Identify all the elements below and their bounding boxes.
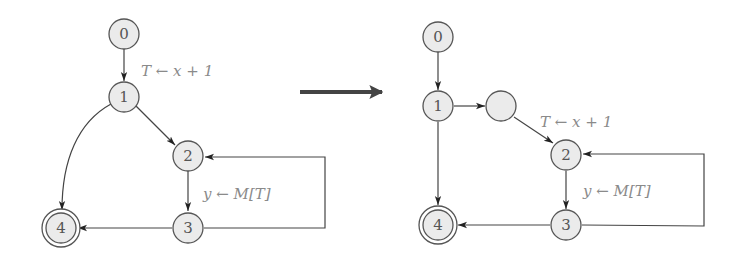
svg-text:0: 0 xyxy=(433,28,443,46)
node-4-accepting: 4 xyxy=(42,209,80,247)
node-4-accepting: 4 xyxy=(419,206,457,244)
svg-text:4: 4 xyxy=(433,216,443,234)
svg-text:1: 1 xyxy=(433,97,443,115)
diagram-canvas: T ← x + 1 y ← M[T] 0 1 2 3 4 xyxy=(0,0,737,259)
node-1: 1 xyxy=(109,82,139,112)
edge-1-2 xyxy=(136,106,175,145)
edge-1-4 xyxy=(62,104,111,210)
node-0: 0 xyxy=(423,22,453,52)
left-graph: T ← x + 1 y ← M[T] 0 1 2 3 4 xyxy=(42,19,325,247)
node-2: 2 xyxy=(551,140,581,170)
node-0: 0 xyxy=(109,19,139,49)
svg-text:0: 0 xyxy=(119,25,129,43)
svg-text:2: 2 xyxy=(561,146,571,164)
svg-text:2: 2 xyxy=(183,147,193,165)
label-assign-y: y ← M[T] xyxy=(582,182,651,200)
node-1: 1 xyxy=(423,91,453,121)
node-2: 2 xyxy=(173,141,203,171)
label-assign-T: T ← x + 1 xyxy=(540,113,612,131)
node-new-empty xyxy=(486,91,516,121)
svg-text:4: 4 xyxy=(56,219,66,237)
node-3: 3 xyxy=(551,210,581,240)
label-assign-T: T ← x + 1 xyxy=(141,62,213,80)
label-assign-y: y ← M[T] xyxy=(202,185,271,203)
right-graph: T ← x + 1 y ← M[T] 0 1 2 3 4 xyxy=(419,22,704,244)
svg-text:3: 3 xyxy=(561,216,571,234)
svg-text:3: 3 xyxy=(183,219,193,237)
node-3: 3 xyxy=(173,213,203,243)
svg-text:1: 1 xyxy=(119,88,129,106)
